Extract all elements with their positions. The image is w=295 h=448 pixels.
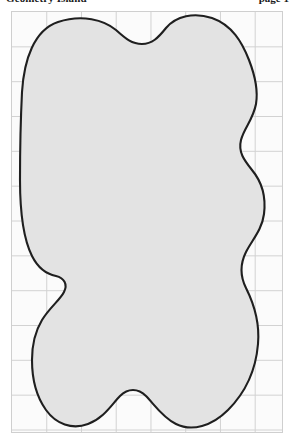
worksheet-header: Geometry Island page 1 bbox=[0, 0, 295, 5]
grid-line-group bbox=[12, 12, 282, 432]
grid-lines bbox=[12, 12, 282, 432]
header-row: Geometry Island page 1 bbox=[0, 0, 295, 5]
worksheet-page: Geometry Island page 1 bbox=[0, 0, 295, 448]
page-number-label: page 1 bbox=[259, 0, 289, 4]
grid-area bbox=[11, 11, 283, 433]
page-title: Geometry Island bbox=[6, 0, 87, 4]
